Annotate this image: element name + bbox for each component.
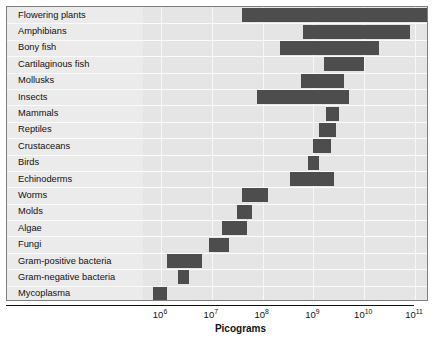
range-bar	[242, 8, 428, 22]
x-tick-label: 107	[204, 309, 218, 320]
range-bar	[290, 172, 333, 186]
plot-area: Flowering plantsAmphibiansBony fishCarti…	[6, 6, 428, 301]
range-bar	[303, 25, 410, 39]
range-bar	[209, 238, 229, 252]
range-bar	[178, 270, 188, 284]
category-label: Gram-positive bacteria	[18, 256, 112, 267]
range-bar	[242, 188, 268, 202]
range-bar	[237, 205, 252, 219]
decade-gridline	[263, 7, 264, 300]
category-label: Mammals	[18, 108, 58, 119]
x-axis-title: Picograms	[0, 323, 435, 334]
decade-gridline	[161, 7, 162, 300]
category-label: Bony fish	[18, 42, 56, 53]
x-tick-label: 1011	[405, 309, 423, 320]
decade-gridline	[212, 7, 213, 300]
category-label: Algae	[18, 223, 42, 234]
category-label: Mycoplasma	[18, 288, 70, 299]
category-label: Reptiles	[18, 124, 52, 135]
range-bar	[257, 90, 349, 104]
range-bar	[326, 107, 339, 121]
x-axis-line	[6, 305, 414, 306]
category-label: Cartilaginous fish	[18, 59, 89, 70]
genome-size-range-chart: Flowering plantsAmphibiansBony fishCarti…	[0, 0, 435, 341]
category-label: Molds	[18, 206, 43, 217]
category-label: Echinoderms	[18, 174, 72, 185]
category-label: Birds	[18, 157, 39, 168]
category-label: Fungi	[18, 239, 41, 250]
range-bar	[167, 254, 202, 268]
x-tick-label: 1010	[354, 309, 372, 320]
range-bar	[280, 41, 379, 55]
category-label: Worms	[18, 190, 47, 201]
category-label: Amphibians	[18, 26, 67, 37]
x-tick-label: 106	[153, 309, 167, 320]
category-label: Crustaceans	[18, 141, 70, 152]
range-bar	[153, 287, 166, 301]
range-bar	[313, 139, 330, 153]
range-bar	[222, 221, 247, 235]
range-bar	[324, 57, 364, 71]
range-bar	[308, 156, 319, 170]
category-label: Mollusks	[18, 75, 54, 86]
decade-gridline	[415, 7, 416, 300]
range-bar	[319, 123, 336, 137]
x-tick-label: 108	[254, 309, 268, 320]
category-label: Gram-negative bacteria	[18, 272, 115, 283]
x-axis-title-text: Picograms	[215, 323, 266, 334]
range-bar	[301, 74, 344, 88]
category-label: Insects	[18, 92, 47, 103]
category-label: Flowering plants	[18, 10, 86, 21]
x-tick-label: 109	[305, 309, 319, 320]
